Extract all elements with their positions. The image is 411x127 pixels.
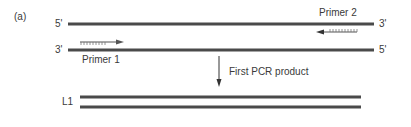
panel-label: (a) (14, 11, 26, 23)
down-arrow-icon (217, 56, 222, 87)
primer-2-arrow (316, 29, 357, 35)
primer-1-arrow (80, 40, 124, 46)
primer-1-label: Primer 1 (82, 54, 120, 66)
product-strand-bottom (80, 106, 361, 109)
primer-2-label: Primer 2 (319, 7, 357, 19)
top-strand-3prime-label: 3' (379, 18, 386, 30)
top-strand-5prime-label: 5' (55, 18, 62, 30)
product-strand-top (80, 96, 361, 99)
bottom-strand-3prime-label: 3' (55, 44, 62, 56)
step-label: First PCR product (229, 66, 308, 78)
top-strand-line (68, 23, 374, 26)
product-label: L1 (62, 96, 73, 108)
bottom-strand-5prime-label: 5' (379, 44, 386, 56)
bottom-strand-line (68, 49, 374, 52)
